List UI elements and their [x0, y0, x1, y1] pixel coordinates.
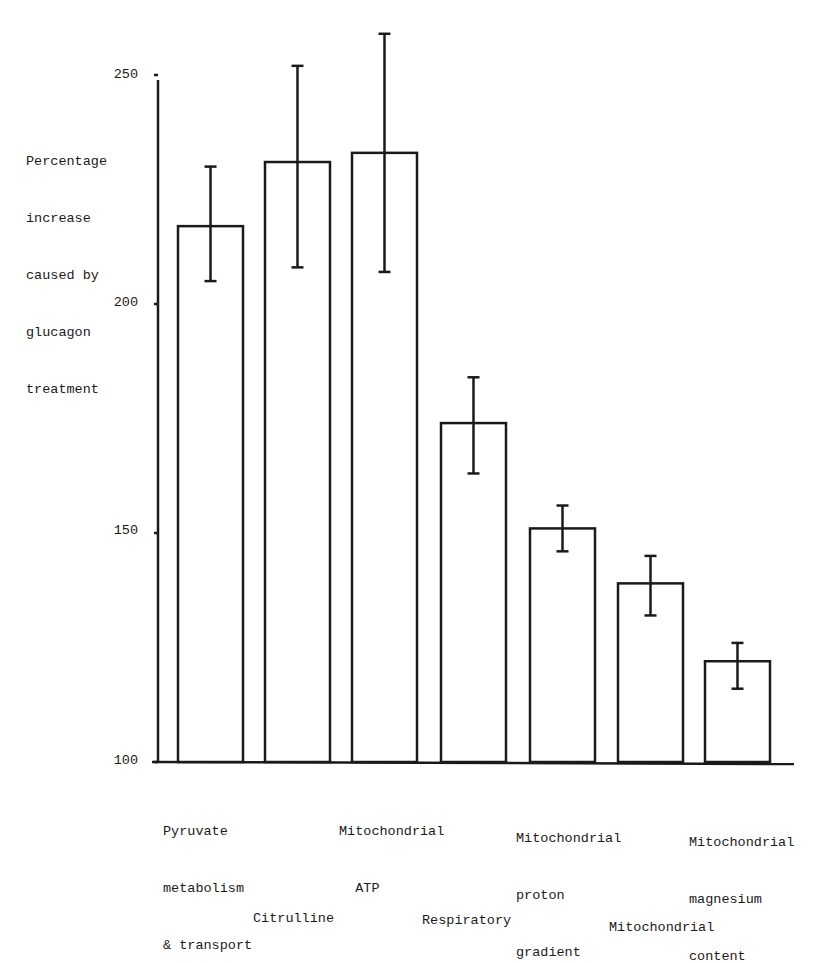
y-axis-label-line: caused by	[26, 266, 107, 285]
x-category-label-line: Citrulline	[253, 909, 334, 928]
x-category-label-line: metabolism	[163, 879, 252, 898]
y-tick-label: 150	[98, 523, 138, 538]
x-category-label: Mitochondrial proton gradient	[516, 791, 621, 963]
x-category-label-line: & transport	[163, 936, 252, 955]
x-category-label-line: Mitochondrial	[516, 829, 621, 848]
bar	[530, 528, 595, 762]
y-axis-label-line: Percentage	[26, 152, 107, 171]
x-category-label-line: content	[689, 947, 794, 963]
x-category-label-line: gradient	[516, 943, 621, 962]
bar	[178, 226, 243, 762]
x-category-label-line: Mitochondrial	[339, 822, 444, 841]
y-axis-label-line: treatment	[26, 380, 107, 399]
y-tick-label: 200	[98, 295, 138, 310]
y-axis-label: Percentage increase caused by glucagon t…	[26, 114, 107, 418]
x-category-label: Pyruvate metabolism & transport	[163, 784, 252, 963]
x-category-label-line: Pyruvate	[163, 822, 252, 841]
y-axis-label-line: glucagon	[26, 323, 107, 342]
x-category-label: Respiratory chain activity	[422, 873, 511, 963]
x-category-label: Mitochondrial magnesium content	[689, 795, 794, 963]
x-category-label-line: proton	[516, 886, 621, 905]
y-axis-label-line: increase	[26, 209, 107, 228]
x-category-label-line: magnesium	[689, 890, 794, 909]
y-tick-label: 250	[98, 67, 138, 82]
x-category-label: Citrulline synthesis	[253, 871, 334, 963]
x-category-label-line: Respiratory	[422, 911, 511, 930]
x-category-label-line: Mitochondrial	[689, 833, 794, 852]
y-tick-label: 100	[98, 753, 138, 768]
